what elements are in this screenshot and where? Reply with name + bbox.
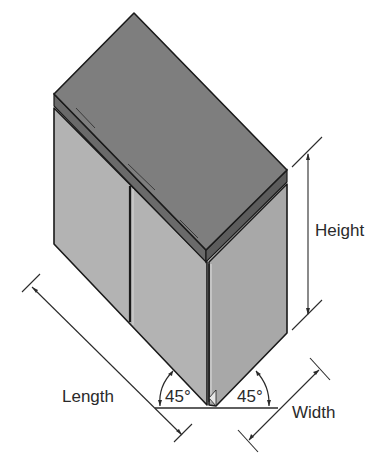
angle-left-label: 45°	[165, 388, 191, 405]
height-label: Height	[315, 222, 364, 239]
cabinet-dimension-diagram: Height Length Width 45° 45°	[0, 0, 383, 473]
length-label: Length	[62, 388, 114, 405]
angle-right-label: 45°	[237, 388, 263, 405]
width-label: Width	[292, 404, 335, 421]
